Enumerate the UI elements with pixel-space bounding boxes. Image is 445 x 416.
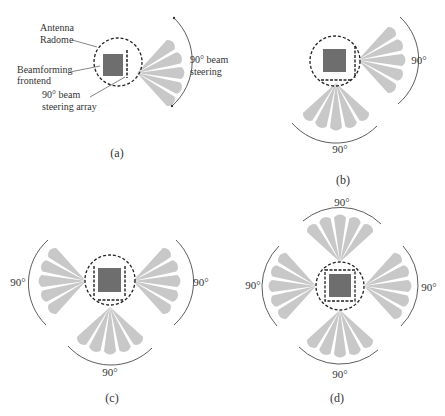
beam-steering-diagram: Antenna Radome Beamforming frontend 90° … (0, 0, 445, 416)
label-frontend-2: frontend (17, 75, 51, 86)
panel-d: 90° 90° 90° 90° (d) (245, 196, 436, 405)
angle-label-top: 90° (334, 196, 349, 208)
beam-fan-right (133, 38, 184, 108)
angle-label-left: 90° (245, 279, 260, 291)
beamforming-chip (98, 268, 121, 292)
panel-c: 90° 90° 90° (c) (10, 240, 208, 405)
beamforming-chip (103, 54, 123, 76)
label-array-1: 90° beam (42, 89, 80, 100)
caption-a: (a) (110, 146, 123, 160)
panel-a: Antenna Radome Beamforming frontend 90° … (17, 17, 228, 160)
angle-label-right: 90° (193, 276, 208, 288)
beamforming-chip (323, 49, 346, 72)
angle-label-right: 90° (411, 54, 426, 66)
label-steer-1: 90° beam (190, 54, 228, 65)
beamforming-chip (329, 274, 351, 297)
label-radome-1: Antenna (40, 22, 74, 33)
label-radome-2: Radome (40, 34, 74, 45)
angle-label-bottom: 90° (102, 366, 117, 378)
caption-d: (d) (330, 391, 344, 405)
angle-label-left: 90° (10, 276, 25, 288)
label-frontend-1: Beamforming (17, 64, 73, 75)
caption-b: (b) (336, 173, 350, 187)
label-steer-2: steering (190, 66, 222, 77)
angle-label-bottom: 90° (332, 143, 347, 155)
panel-b: 90° 90° (b) (292, 17, 427, 187)
caption-c: (c) (105, 391, 118, 405)
angle-label-right: 90° (421, 281, 436, 293)
label-array-2: steering array (42, 101, 97, 112)
angle-label-bottom: 90° (332, 368, 347, 380)
